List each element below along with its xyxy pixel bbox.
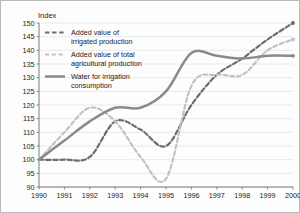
y-axis-tick-labels: 9095100105110115120125130135140145150 [23,19,35,192]
line-chart: 9095100105110115120125130135140145150 19… [1,1,300,212]
axes [37,23,294,190]
series-endpoint-0 [291,21,295,25]
y-tick-label: 150 [23,19,35,28]
y-tick-label: 115 [23,114,34,123]
y-tick-label: 120 [23,101,35,110]
chart-legend: Added value ofirrigated productionAdded … [45,28,142,90]
x-tick-label: 1990 [31,191,47,200]
y-tick-label: 130 [23,73,35,82]
y-tick-label: 110 [23,128,34,137]
y-tick-label: 145 [23,32,35,41]
chart-container: 9095100105110115120125130135140145150 19… [0,0,300,213]
y-tick-label: 100 [23,155,35,164]
x-tick-label: 1994 [133,191,149,200]
y-axis-title: Index [38,11,57,20]
y-tick-label: 105 [23,142,35,151]
x-axis-tick-labels: 1990199119921993199419951996199719981999… [31,191,300,200]
x-tick-label: 1995 [158,191,174,200]
series-endpoint-1 [291,38,295,42]
y-tick-label: 95 [27,169,35,178]
x-tick-label: 1996 [183,191,199,200]
legend-label-1-line2: agricultural production [71,59,142,68]
x-tick-label: 1998 [234,191,250,200]
x-tick-label: 2000 [285,191,300,200]
x-tick-label: 1991 [56,191,72,200]
legend-label-0-line2: irrigated production [71,37,133,46]
x-tick-label: 1999 [260,191,276,200]
legend-label-1-line1: Added value of total [71,50,135,59]
y-tick-label: 125 [23,87,35,96]
series-endpoint-2 [291,54,295,58]
legend-label-2-line2: consumption [71,81,112,90]
gridlines [39,23,293,187]
x-tick-label: 1992 [82,191,98,200]
legend-label-0-line1: Added value of [71,28,119,37]
legend-label-2-line1: Water for irrigation [71,72,130,81]
y-tick-label: 140 [23,46,35,55]
x-tick-label: 1993 [107,191,123,200]
x-tick-label: 1997 [209,191,225,200]
y-tick-label: 135 [23,60,35,69]
